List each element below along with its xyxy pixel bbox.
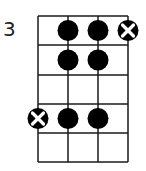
finger-dot (58, 50, 79, 71)
chord-diagram (0, 0, 146, 171)
finger-dot (58, 108, 79, 129)
x-marker-icon (28, 108, 49, 129)
x-marker-icon (118, 20, 139, 41)
finger-dot (88, 20, 109, 41)
finger-dot (88, 50, 109, 71)
finger-dot (58, 20, 79, 41)
finger-dot (88, 108, 109, 129)
